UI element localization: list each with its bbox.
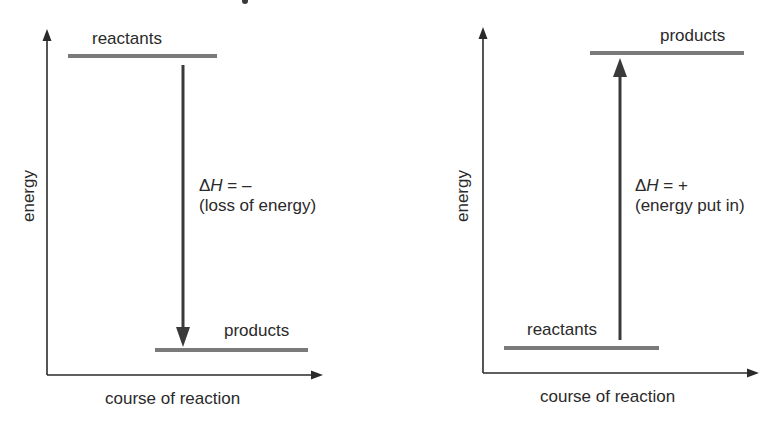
delta-h-description: (loss of energy) [199,196,316,216]
y-axis-arrowhead-icon [479,27,488,39]
reactants-label: reactants [92,30,162,47]
products-label: products [660,27,725,44]
y-axis-label: energy [20,170,37,222]
reactants-label: reactants [527,321,597,338]
enthalpy-variable: H [210,176,222,195]
y-axis-arrowhead-icon [43,29,52,41]
products-label: products [224,322,289,339]
exothermic-diagram-graphics [0,0,390,428]
exothermic-energy-diagram: reactants products energy course of reac… [0,0,390,428]
delta-h-equation: ΔH = + [635,176,745,196]
x-axis-label: course of reaction [105,390,240,407]
x-axis-label: course of reaction [540,388,675,405]
delta-symbol: Δ [635,176,646,195]
up-arrowhead-icon [613,58,627,77]
delta-h-annotation: ΔH = + (energy put in) [635,176,745,216]
delta-symbol: Δ [199,176,210,195]
down-arrowhead-icon [176,327,190,347]
delta-h-sign: = + [659,176,688,195]
x-axis-arrowhead-icon [311,371,323,380]
delta-h-equation: ΔH = – [199,176,316,196]
delta-h-description: (energy put in) [635,196,745,216]
y-axis-label: energy [454,170,471,222]
enthalpy-variable: H [646,176,658,195]
endothermic-energy-diagram: products reactants energy course of reac… [390,0,780,428]
x-axis-arrowhead-icon [747,369,759,378]
delta-h-sign: = – [223,176,252,195]
delta-h-annotation: ΔH = – (loss of energy) [199,176,316,216]
